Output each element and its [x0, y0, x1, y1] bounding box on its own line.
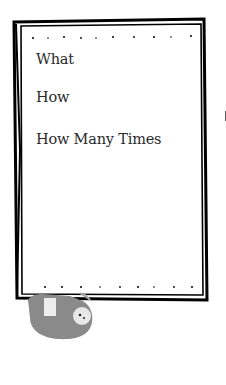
edge-mark: [225, 111, 226, 121]
doodle-frame: [0, 0, 226, 385]
prompt-how-many-times: How Many Times: [36, 131, 161, 147]
top-dots: [32, 35, 192, 39]
prompt-what: What: [36, 51, 74, 67]
prompt-how: How: [36, 89, 69, 105]
bottom-dots: [44, 286, 193, 288]
